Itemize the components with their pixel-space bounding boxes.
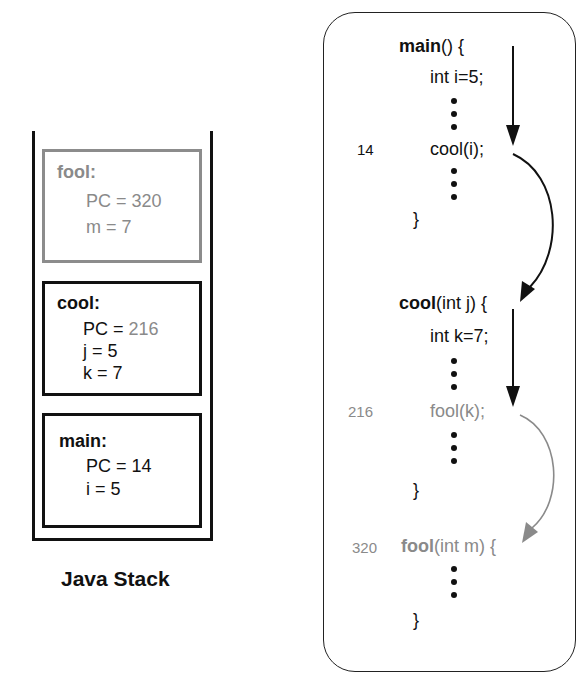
- control-flow-arrows: [0, 0, 587, 685]
- arrow-call-fool: [520, 415, 554, 528]
- arrowhead-down-icon: [506, 386, 520, 407]
- arrowhead-down-icon: [506, 125, 520, 146]
- arrow-call-cool: [513, 154, 553, 287]
